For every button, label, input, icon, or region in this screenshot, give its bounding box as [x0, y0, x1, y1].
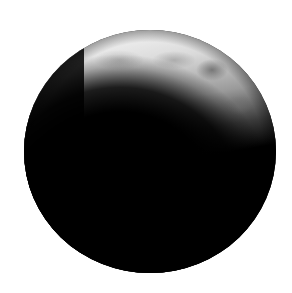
- crescent-illumination: [24, 30, 276, 273]
- moon-photo: Crescent moon: [0, 0, 292, 293]
- moon-disk: [24, 30, 276, 273]
